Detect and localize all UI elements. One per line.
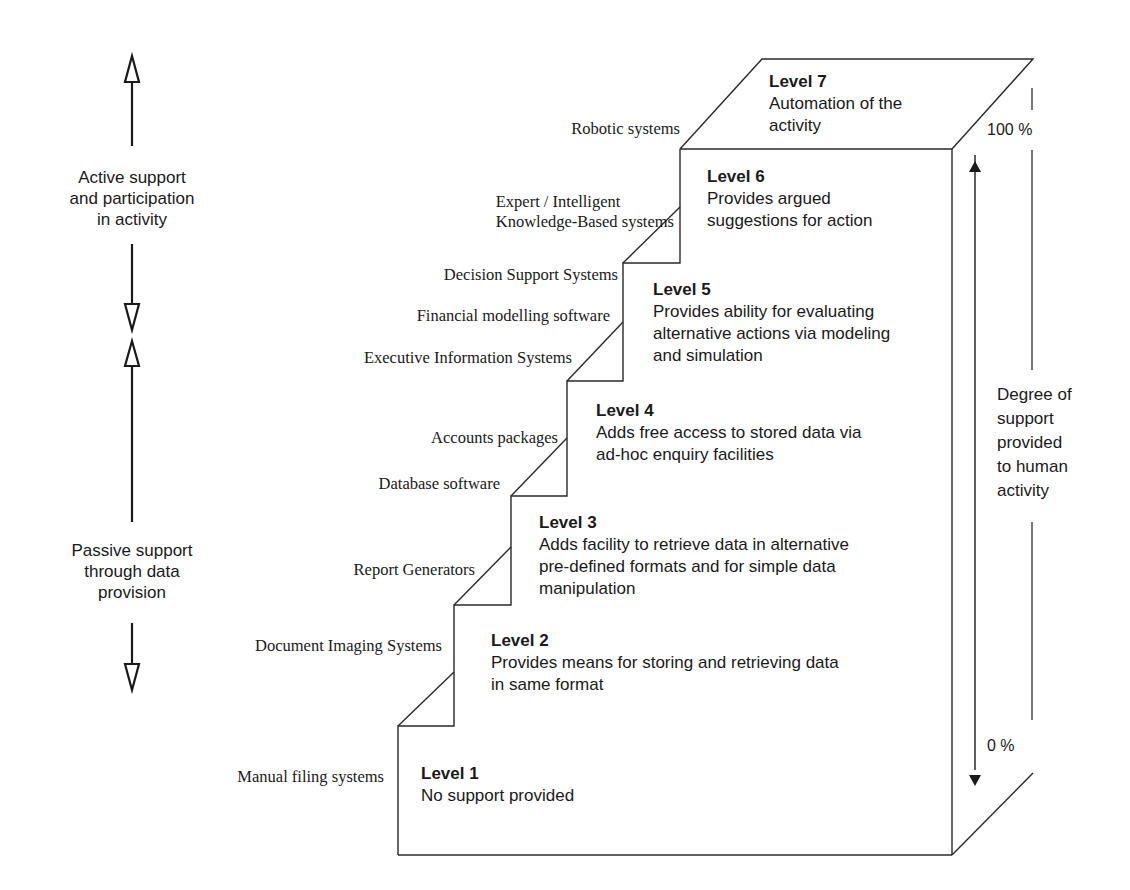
passive-support-label: Passive support through data provision [40,540,224,603]
step-diagonal-4 [567,322,623,381]
level-description: Provides argued suggestions for action [707,188,872,232]
level-title: Level 4 [596,400,862,422]
level-description: No support provided [421,785,574,807]
degree-of-support-label: Degree of support provided to human acti… [997,383,1072,503]
arrow-down-icon [969,775,981,786]
level-title: Level 6 [707,166,872,188]
hollow-arrow-down-icon [125,664,139,690]
hollow-arrow-up-icon [125,56,139,82]
system-label-manual-filing: Manual filing systems [237,767,384,787]
level-1: Level 1 No support provided [421,763,574,807]
system-label-accounts-packages: Accounts packages [431,428,558,448]
level-title: Level 5 [653,279,890,301]
level-description: Provides means for storing and retrievin… [491,652,839,696]
level-title: Level 3 [539,512,849,534]
level-6: Level 6 Provides argued suggestions for … [707,166,872,232]
active-support-label: Active support and participation in acti… [40,167,224,230]
bottom-right-diagonal [952,773,1033,855]
system-label-robotic: Robotic systems [571,119,680,139]
system-label-executive-information: Executive Information Systems [364,348,572,368]
step-diagonal-1 [398,672,454,726]
level-7: Level 7 Automation of the activity [769,71,902,137]
hollow-arrow-down-icon [125,304,139,330]
level-description: Automation of the activity [769,93,902,137]
arrow-up-icon [969,161,981,172]
hollow-arrow-up-icon [125,341,139,366]
percent-0-label: 0 % [987,737,1015,755]
system-label-expert-kbs: Expert / Intelligent Knowledge-Based sys… [496,192,674,232]
level-4: Level 4 Adds free access to stored data … [596,400,862,466]
system-label-database-software: Database software [379,474,500,494]
system-label-document-imaging: Document Imaging Systems [255,636,442,656]
step-profile [398,149,680,855]
system-label-decision-support: Decision Support Systems [444,265,618,285]
percent-100-label: 100 % [987,121,1032,139]
level-description: Adds free access to stored data via ad-h… [596,422,862,466]
staircase-outline [0,0,1130,890]
level-3: Level 3 Adds facility to retrieve data i… [539,512,849,600]
level-title: Level 2 [491,630,839,652]
support-levels-diagram: Active support and participation in acti… [0,0,1130,890]
system-label-report-generators: Report Generators [354,560,475,580]
level-5: Level 5 Provides ability for evaluating … [653,279,890,367]
level-2: Level 2 Provides means for storing and r… [491,630,839,696]
level-title: Level 7 [769,71,902,93]
level-description: Adds facility to retrieve data in altern… [539,534,849,600]
system-label-financial-modelling: Financial modelling software [417,306,610,326]
level-description: Provides ability for evaluating alternat… [653,301,890,367]
level-title: Level 1 [421,763,574,785]
